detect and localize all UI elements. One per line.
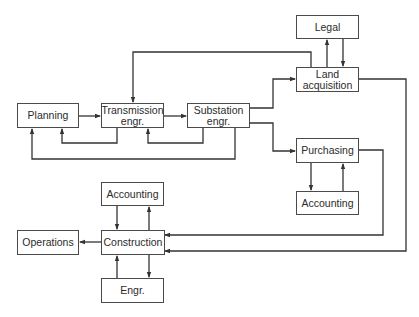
arrow-substation-to-purchasing (250, 123, 295, 151)
node-accounting-construction: Accounting (101, 182, 164, 206)
node-legal: Legal (296, 15, 359, 39)
node-land-acquisition: Land acquisition (296, 67, 359, 92)
node-accounting-purchasing: Accounting (296, 191, 359, 215)
arrow-transmission-to-planning (62, 128, 117, 143)
node-construction: Construction (101, 230, 165, 255)
node-planning: Planning (17, 103, 79, 128)
node-purchasing: Purchasing (296, 138, 359, 163)
arrow-substation-to-land (250, 79, 295, 108)
arrow-land-to-transmission (133, 52, 311, 102)
node-operations: Operations (17, 230, 79, 255)
node-substation-engr: Substation engr. (187, 103, 250, 128)
node-transmission-engr: Transmission engr. (101, 103, 164, 128)
node-engr: Engr. (101, 278, 164, 303)
arrow-substation-to-transmission (148, 128, 203, 143)
